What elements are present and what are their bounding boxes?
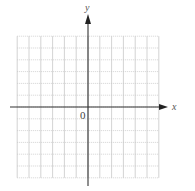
coordinate-plane (0, 0, 195, 191)
y-axis-label: y (85, 3, 89, 13)
x-axis-label: x (172, 102, 176, 112)
origin-label: 0 (80, 110, 86, 121)
x-axis-arrow-icon (159, 104, 168, 110)
y-axis-arrow-icon (85, 14, 91, 24)
